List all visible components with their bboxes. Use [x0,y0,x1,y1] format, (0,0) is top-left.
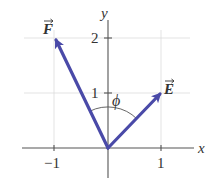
vector-f-label: F [42,21,53,37]
y-tick-label-1: 1 [91,85,99,101]
vector-diagram: x y −1 1 1 2 ϕ E F [0,0,214,186]
x-axis-label: x [197,140,205,156]
vector-e-label: E [163,81,174,97]
vector-f-arrow [56,40,108,148]
x-tick-label-neg1: −1 [44,155,60,171]
angle-label-phi: ϕ [112,92,120,110]
vector-e-label-group: E [163,79,174,97]
vector-f-label-group: F [42,19,53,37]
y-tick-label-2: 2 [91,30,99,46]
y-axis-label: y [99,5,108,21]
x-tick-label-1: 1 [157,155,165,171]
